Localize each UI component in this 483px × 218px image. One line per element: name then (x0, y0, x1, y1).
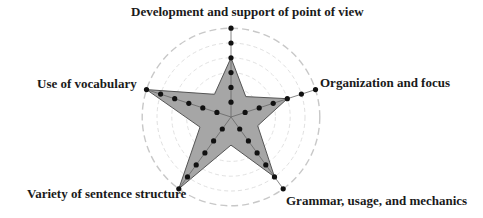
tick-dot (185, 174, 190, 179)
tick-dot (211, 138, 216, 143)
tick-dot (313, 87, 318, 92)
tick-dot (158, 92, 163, 97)
tick-dot (285, 96, 290, 101)
tick-dot (271, 101, 276, 106)
tick-dot (243, 110, 248, 115)
tick-dot (228, 55, 233, 60)
tick-dot (228, 85, 233, 90)
axis-label-vocabulary: Use of vocabulary (37, 76, 137, 91)
tick-dot (263, 162, 268, 167)
tick-dot (228, 40, 233, 45)
tick-dot (220, 126, 225, 131)
tick-dot (214, 110, 219, 115)
tick-dot (299, 92, 304, 97)
tick-dot (257, 105, 262, 110)
tick-dot (246, 138, 251, 143)
tick-dot (228, 100, 233, 105)
tick-dot (228, 70, 233, 75)
tick-dot (194, 162, 199, 167)
axis-label-development: Development and support of point of view (131, 4, 364, 19)
axis-label-grammar: Grammar, usage, and mechanics (286, 193, 467, 208)
tick-dot (255, 150, 260, 155)
tick-dot (172, 96, 177, 101)
tick-dot (144, 87, 149, 92)
axis-lines (147, 28, 316, 189)
tick-dot (237, 126, 242, 131)
tick-dot (281, 186, 286, 191)
score-star (147, 58, 288, 189)
tick-dot (202, 150, 207, 155)
tick-dot (200, 105, 205, 110)
axis-label-organization: Organization and focus (320, 75, 450, 90)
data-star-polygon (147, 58, 288, 189)
axis-label-variety: Variety of sentence structure (27, 186, 186, 201)
tick-dot (186, 101, 191, 106)
tick-dot (228, 26, 233, 31)
tick-dot (272, 174, 277, 179)
